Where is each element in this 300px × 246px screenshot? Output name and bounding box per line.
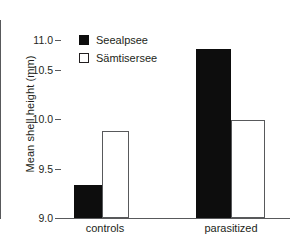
legend-label-saemtisersee: Sämtisersee <box>96 52 157 64</box>
legend: Seealpsee Sämtisersee <box>79 32 157 68</box>
bar-parasitized-saemtisersee <box>231 120 266 218</box>
legend-swatch-filled-icon <box>79 35 89 45</box>
x-category-label-controls: controls <box>62 222 148 234</box>
y-tick-mark-10.0 <box>55 119 61 120</box>
y-tick-label-11.0: 11.0 <box>13 34 53 46</box>
legend-item-saemtisersee: Sämtisersee <box>79 50 157 66</box>
y-axis-line <box>0 20 1 219</box>
y-tick-mark-9.5 <box>55 169 61 170</box>
bar-controls-seealpsee <box>74 185 102 218</box>
y-tick-label-9.5: 9.5 <box>13 163 53 175</box>
legend-label-seealpsee: Seealpsee <box>96 34 148 46</box>
legend-item-seealpsee: Seealpsee <box>79 32 157 48</box>
y-tick-label-9.0: 9.0 <box>13 212 53 224</box>
y-tick-mark-11.0 <box>55 40 61 41</box>
legend-swatch-open-icon <box>79 53 89 63</box>
bar-parasitized-seealpsee <box>196 49 231 218</box>
bar-controls-saemtisersee <box>102 131 130 218</box>
x-category-label-parasitized: parasitized <box>183 222 279 234</box>
y-tick-label-10.5: 10.5 <box>13 64 53 76</box>
bar-chart-figure: Mean shell height (mm) 11.0 10.5 10.0 9.… <box>0 0 300 246</box>
x-axis-line <box>61 218 290 219</box>
y-tick-label-10.0: 10.0 <box>13 113 53 125</box>
y-tick-mark-10.5 <box>55 70 61 71</box>
